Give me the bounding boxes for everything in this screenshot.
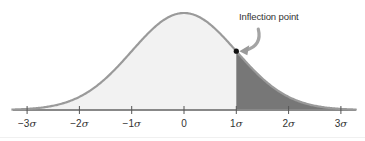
sigma-symbol: σ: [340, 118, 347, 129]
tick-number: −3: [18, 118, 29, 129]
sigma-symbol: σ: [288, 118, 295, 129]
sigma-symbol: σ: [236, 118, 243, 129]
tick-number: 0: [181, 118, 187, 129]
unshaded-area: [11, 13, 356, 110]
x-tick-label: −1σ: [123, 118, 141, 129]
inflection-point-marker: [234, 49, 239, 54]
tick-number: −1: [123, 118, 134, 129]
x-tick-label: 1σ: [230, 118, 242, 129]
x-tick-label: −2σ: [70, 118, 88, 129]
sigma-symbol: σ: [134, 118, 141, 129]
x-tick-label: −3σ: [18, 118, 36, 129]
sigma-symbol: σ: [29, 118, 36, 129]
annotation-arrow-icon: [239, 29, 259, 55]
x-tick-label: 0: [181, 118, 187, 129]
tick-number: −2: [70, 118, 81, 129]
sigma-symbol: σ: [82, 118, 89, 129]
x-tick-label: 2σ: [282, 118, 294, 129]
inflection-point-label: Inflection point: [239, 11, 299, 22]
divider: [0, 137, 365, 138]
x-tick-label: 3σ: [335, 118, 347, 129]
